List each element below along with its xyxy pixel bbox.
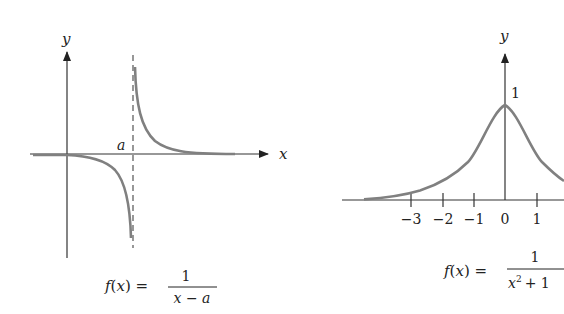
left-formula-denominator: x − a: [174, 290, 211, 306]
left-graph: y x a f(x) = 1 x − a: [30, 30, 288, 306]
right-formula-denominator: x2+ 1: [508, 274, 550, 291]
left-formula-lhs: f(x) =: [104, 277, 148, 295]
left-x-label: x: [279, 145, 288, 163]
right-formula-numerator: 1: [531, 249, 540, 265]
right-graph: y 1 −3 −2 −1 0 1 f(x) = 1 x2+ 1: [342, 27, 564, 291]
right-branch-curve: [135, 67, 235, 154]
left-y-label: y: [61, 30, 71, 48]
right-y-label: y: [499, 27, 509, 45]
x-tick-label: −3: [401, 211, 422, 227]
peak-label: 1: [511, 85, 520, 101]
left-formula-numerator: 1: [182, 268, 191, 284]
asymptote-label: a: [117, 137, 125, 153]
x-tick-label: −2: [433, 211, 454, 227]
right-formula-lhs: f(x) =: [443, 262, 487, 280]
diagram-canvas: y x a f(x) = 1 x − a y 1 −3 −2 −1 0 1 f(…: [0, 0, 564, 314]
left-branch-curve: [33, 155, 131, 238]
bell-curve: [364, 105, 564, 199]
x-tick-label: −1: [464, 211, 485, 227]
x-tick-label: 0: [501, 211, 510, 227]
x-tick-label: 1: [533, 211, 542, 227]
